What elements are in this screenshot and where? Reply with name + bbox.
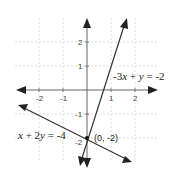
- y-tick-label: 2: [78, 38, 83, 47]
- intersection-label: (0, -2): [94, 133, 118, 143]
- x-tick-label: 1: [109, 94, 114, 103]
- x-axis-arrow-left-icon: [16, 86, 26, 94]
- y-tick-label: -2: [75, 138, 83, 147]
- line2-arrow-left-icon: [18, 104, 28, 111]
- y-tick-label: 1: [78, 62, 83, 71]
- equation-label-line1: -3x + y = -2: [113, 70, 165, 82]
- x-tick-label: 2: [133, 94, 138, 103]
- line2-arrow-right-icon: [122, 156, 132, 163]
- x-tick-label: -2: [36, 94, 44, 103]
- y-tick-label: -1: [75, 110, 83, 119]
- x-axis-arrow-right-icon: [148, 86, 158, 94]
- line1-arrow-up-icon: [120, 18, 128, 29]
- x-tick-label: -1: [60, 94, 68, 103]
- intersection-point: [85, 136, 89, 140]
- coordinate-plane: -2 -1 1 2 2 1 -1 -2 -3x + y = -2 x + 2y …: [0, 0, 174, 178]
- y-axis-arrow-up-icon: [83, 18, 91, 28]
- equation-label-line2: x + 2y = -4: [17, 129, 66, 141]
